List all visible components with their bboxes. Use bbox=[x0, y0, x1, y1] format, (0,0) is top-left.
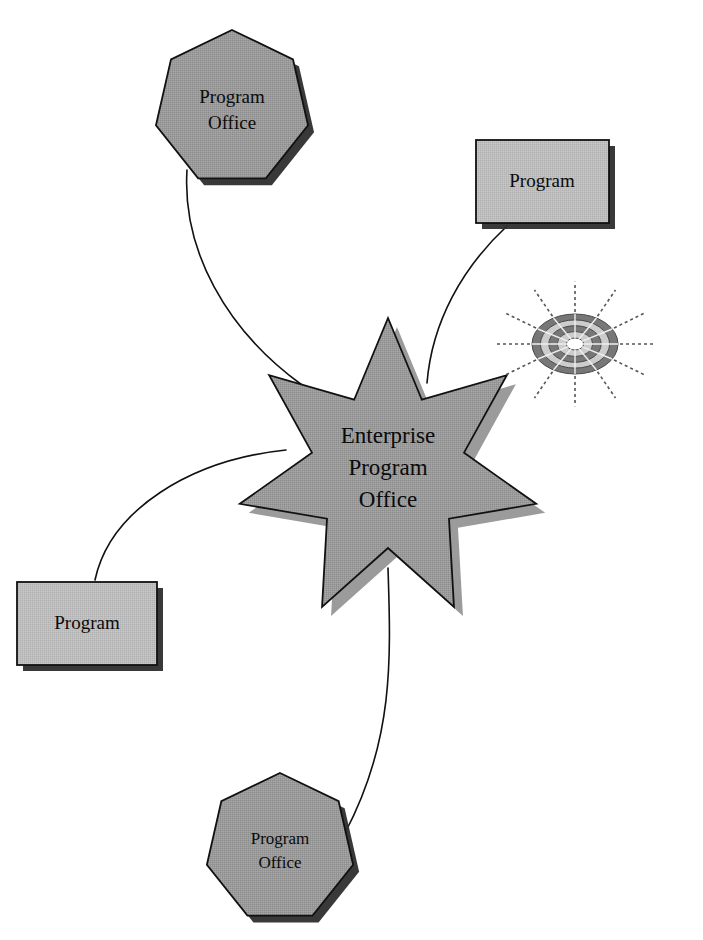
node-label-line-2: Office bbox=[208, 112, 256, 133]
burst-ray bbox=[535, 372, 553, 398]
connector-bottom-to-center bbox=[345, 568, 389, 833]
center-label-line-2: Program bbox=[348, 455, 427, 480]
node-label-line-1: Program bbox=[251, 829, 310, 848]
node-label-line-1: Program bbox=[199, 86, 265, 107]
node-program-top-right[interactable]: Program bbox=[476, 140, 615, 229]
node-program-bottom-left[interactable]: Program bbox=[17, 582, 163, 671]
diagram-canvas: Program Office Program Program Program O… bbox=[0, 0, 703, 940]
node-enterprise-program-office[interactable]: Enterprise Program Office bbox=[240, 318, 545, 616]
burst-center-hole bbox=[566, 338, 583, 350]
sun-burst-icon bbox=[494, 282, 656, 407]
connector-bottom-left-to-center bbox=[95, 450, 286, 580]
burst-ray bbox=[505, 313, 536, 328]
node-program-office-bottom[interactable]: Program Office bbox=[207, 773, 359, 923]
connector-top-left-to-center bbox=[187, 170, 302, 385]
burst-ray bbox=[614, 313, 645, 328]
burst-ray bbox=[598, 372, 616, 398]
burst-ray bbox=[614, 360, 645, 375]
burst-ray bbox=[598, 290, 616, 316]
burst-ray bbox=[505, 360, 536, 375]
node-label-line-1: Program bbox=[54, 612, 120, 633]
burst-ray bbox=[535, 290, 553, 316]
diagram-svg: Program Office Program Program Program O… bbox=[0, 0, 703, 940]
center-label-line-1: Enterprise bbox=[341, 423, 436, 448]
node-label-line-2: Office bbox=[258, 853, 301, 872]
node-program-office-top-left[interactable]: Program Office bbox=[156, 30, 314, 185]
center-label-line-3: Office bbox=[359, 487, 417, 512]
connector-top-right-to-center bbox=[427, 226, 507, 383]
node-label-line-1: Program bbox=[509, 170, 575, 191]
